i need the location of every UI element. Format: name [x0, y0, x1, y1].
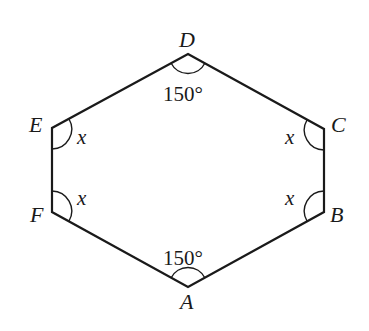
vertex-label-a: A	[178, 289, 194, 314]
angle-label-d: 150°	[163, 82, 203, 106]
angle-label-f: x	[76, 186, 87, 210]
vertex-label-f: F	[29, 202, 44, 227]
angle-label-e: x	[76, 125, 87, 149]
angle-label-a: 150°	[163, 246, 203, 270]
angle-arc-d	[171, 63, 205, 74]
vertex-label-e: E	[28, 112, 43, 137]
angle-label-c: x	[284, 125, 295, 149]
angle-label-b: x	[284, 186, 295, 210]
hexagon-diagram: D E F C B A 150° 150° x x x x	[0, 0, 369, 331]
vertex-label-b: B	[330, 202, 343, 227]
vertex-label-c: C	[331, 112, 346, 137]
vertex-label-d: D	[178, 27, 195, 52]
